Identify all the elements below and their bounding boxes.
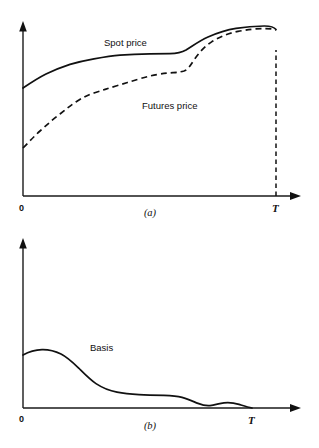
x-axis-end-label-a: T [272,202,280,214]
chart-panel-a: 0 T Spot price Futures price (a) [0,0,319,224]
x-axis-arrow-a [290,192,301,200]
spot-price-label: Spot price [104,37,147,48]
y-axis-arrow-a [19,21,27,32]
chart-b-svg: 0 T Basis (b) [0,224,319,448]
basis-curve [23,350,252,408]
spot-price-curve [23,26,276,88]
futures-price-curve [23,29,276,148]
y-axis-arrow-b [19,238,27,249]
x-axis-arrow-b [290,404,301,412]
x-axis-origin-label-a: 0 [19,203,24,213]
panel-caption-a: (a) [144,207,157,219]
x-axis-end-label-b: T [248,414,256,426]
futures-price-label: Futures price [142,100,197,111]
chart-a-svg: 0 T Spot price Futures price (a) [0,0,319,224]
chart-panel-b: 0 T Basis (b) [0,224,319,448]
figure-root: 0 T Spot price Futures price (a) 0 T Bas… [0,0,319,448]
x-axis-origin-label-b: 0 [19,414,24,424]
basis-label: Basis [90,342,113,353]
panel-caption-b: (b) [144,420,157,432]
